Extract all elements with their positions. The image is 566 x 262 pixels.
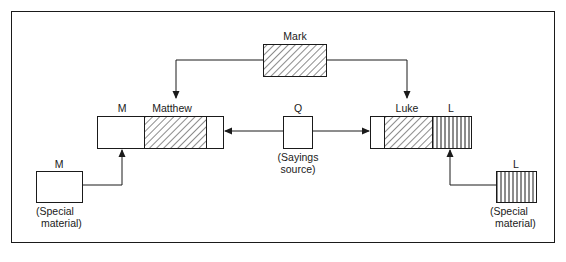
arrow-mark-to-luke bbox=[327, 60, 407, 98]
matthew-box bbox=[98, 117, 224, 149]
luke-label: Luke bbox=[396, 102, 419, 114]
mark-label: Mark bbox=[283, 30, 306, 42]
m-special-caption-line2: material) bbox=[41, 217, 82, 229]
m-special-box bbox=[37, 172, 83, 203]
arrow-mark-to-matthew bbox=[176, 60, 263, 98]
m-special-label: M bbox=[55, 158, 64, 170]
m-special-caption-line1: (Special bbox=[36, 205, 74, 217]
l-special-caption-line2: material) bbox=[495, 217, 536, 229]
arrow-m-to-matthew bbox=[83, 150, 122, 185]
q-caption-line2: source) bbox=[280, 163, 315, 175]
mark-box bbox=[264, 45, 327, 77]
q-caption-line1: (Sayings bbox=[278, 151, 319, 163]
l-special-box bbox=[497, 172, 537, 203]
l-special-label: L bbox=[513, 158, 519, 170]
arrow-l-to-luke bbox=[450, 150, 496, 185]
matthew-m-segment-label: M bbox=[118, 102, 127, 114]
l-special-caption-line1: (Special bbox=[490, 205, 528, 217]
q-box bbox=[284, 117, 313, 149]
luke-l-segment-label: L bbox=[448, 102, 454, 114]
luke-box bbox=[371, 117, 472, 149]
matthew-label: Matthew bbox=[152, 102, 192, 114]
q-label: Q bbox=[294, 102, 302, 114]
